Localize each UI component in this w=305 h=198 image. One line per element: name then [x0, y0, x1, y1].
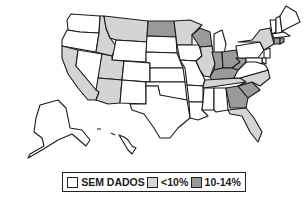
legend-item-mid: 10-14%	[191, 176, 241, 188]
state-al	[214, 88, 228, 112]
state-ms	[202, 88, 214, 110]
legend-label-no-data: SEM DADOS	[81, 176, 145, 188]
legend-swatch-low	[147, 177, 158, 188]
legend-swatch-no-data	[67, 177, 78, 188]
state-nd	[147, 21, 176, 37]
state-mi	[214, 30, 226, 54]
legend-item-no-data: SEM DADOS	[67, 176, 145, 188]
state-az	[96, 78, 122, 104]
map-legend: SEM DADOS <10% 10-14%	[62, 172, 246, 192]
state-mt	[104, 16, 148, 42]
state-ri	[280, 38, 284, 44]
legend-item-low: <10%	[147, 176, 188, 188]
state-fl	[228, 108, 262, 142]
state-me	[280, 6, 300, 32]
legend-label-mid: 10-14%	[205, 176, 241, 188]
state-ak	[28, 100, 90, 158]
state-nm	[120, 80, 146, 104]
state-nj	[264, 48, 270, 58]
state-ne	[146, 52, 183, 68]
state-hi	[97, 129, 136, 154]
state-pa	[236, 42, 264, 58]
legend-label-low: <10%	[161, 176, 188, 188]
state-sd	[146, 36, 177, 53]
state-ar	[187, 85, 203, 102]
legend-swatch-mid	[191, 177, 202, 188]
state-wa	[67, 14, 100, 33]
state-co	[122, 61, 150, 82]
state-wy	[112, 40, 147, 62]
state-ct	[274, 38, 280, 44]
state-ks	[150, 68, 185, 82]
us-map	[0, 0, 305, 170]
